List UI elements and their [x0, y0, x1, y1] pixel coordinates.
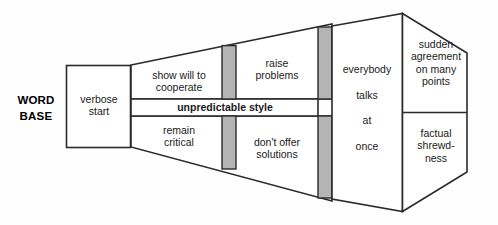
funnel-diagram: WORD BASE verbose start show will to coo… — [0, 0, 498, 225]
divider-bar-2-upper — [318, 27, 332, 99]
divider-bar-1-lower — [222, 116, 236, 169]
divider-bar-2-lower — [318, 116, 332, 198]
divider-bar-1-upper — [222, 46, 236, 99]
unpredictable-style-band — [131, 99, 318, 116]
everybody-talks-column — [332, 14, 403, 212]
diagram-canvas — [0, 0, 498, 225]
verbose-start-box — [67, 66, 131, 148]
